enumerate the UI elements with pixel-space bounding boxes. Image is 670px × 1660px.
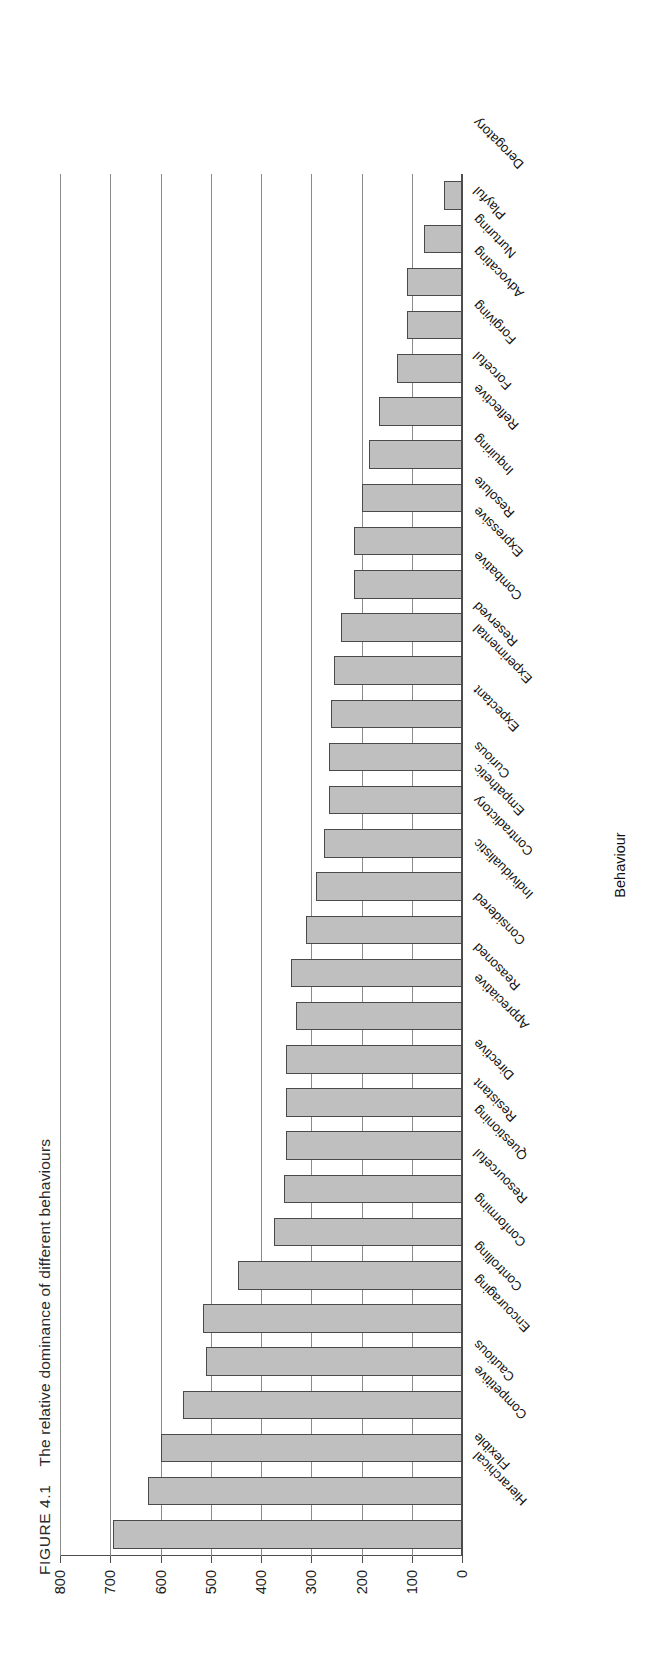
bar	[334, 656, 462, 685]
caption-text: The relative dominance of different beha…	[36, 1139, 53, 1467]
caption-gap	[36, 1467, 53, 1485]
category-label: Advocating	[470, 244, 527, 301]
bar	[379, 397, 462, 426]
bar	[284, 1175, 462, 1204]
bar	[331, 700, 462, 729]
value-tick	[462, 1556, 463, 1563]
category-label: Expectant	[470, 683, 522, 735]
value-tick-label: 500	[203, 1570, 219, 1594]
bar	[397, 354, 462, 383]
value-tick	[110, 1556, 111, 1563]
value-tick-label: 0	[454, 1570, 470, 1578]
value-tick	[362, 1556, 363, 1563]
value-tick-label: 400	[253, 1570, 269, 1594]
bar	[329, 743, 462, 772]
category-label: Inquiring	[470, 432, 516, 478]
category-label: Directive	[470, 1036, 517, 1083]
category-label: Reflective	[470, 381, 522, 433]
bar	[316, 872, 462, 901]
value-tick-label: 300	[303, 1570, 319, 1594]
value-tick-label: 700	[102, 1570, 118, 1594]
bar	[286, 1088, 462, 1117]
bar	[286, 1131, 462, 1160]
value-tick	[211, 1556, 212, 1563]
bar	[306, 916, 462, 945]
bar	[329, 786, 462, 815]
category-label: Derogatory	[470, 115, 527, 172]
value-tick-label: 600	[153, 1570, 169, 1594]
value-tick-label: 200	[354, 1570, 370, 1594]
category-axis-title: Behaviour	[612, 174, 628, 1556]
bar	[444, 181, 462, 210]
bar	[291, 959, 462, 988]
bar	[296, 1002, 462, 1031]
bar	[113, 1520, 462, 1549]
value-tick	[412, 1556, 413, 1563]
bar	[407, 268, 462, 297]
category-label: Considered	[470, 890, 528, 948]
bar	[206, 1347, 462, 1376]
bar	[354, 527, 462, 556]
figure-page: FIGURE 4.1 The relative dominance of dif…	[0, 0, 670, 1660]
value-tick-label: 100	[404, 1570, 420, 1594]
bar	[183, 1391, 462, 1420]
bar	[203, 1304, 462, 1333]
bar	[362, 484, 463, 513]
category-label: Forgiving	[470, 298, 519, 347]
value-tick-label: 800	[52, 1570, 68, 1594]
bar	[274, 1218, 462, 1247]
bar	[238, 1261, 462, 1290]
value-tick	[311, 1556, 312, 1563]
bar	[341, 613, 462, 642]
bars-group	[60, 174, 462, 1556]
rotated-figure-container: FIGURE 4.1 The relative dominance of dif…	[0, 0, 670, 1660]
bar	[354, 570, 462, 599]
bar	[369, 440, 462, 469]
bar	[161, 1434, 463, 1463]
bar	[407, 311, 462, 340]
bar	[424, 225, 462, 254]
bar	[148, 1477, 462, 1506]
bar	[324, 829, 462, 858]
value-tick	[60, 1556, 61, 1563]
gridline	[462, 174, 463, 1556]
bar	[286, 1045, 462, 1074]
value-tick	[161, 1556, 162, 1563]
value-tick	[261, 1556, 262, 1563]
figure-number: FIGURE 4.1	[36, 1485, 53, 1575]
bar-chart-plot-area: HierarchicalFlexibleCompetitiveCautiousE…	[60, 174, 462, 1556]
